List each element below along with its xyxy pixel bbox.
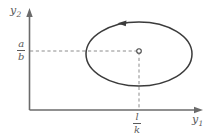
figure-canvas (0, 0, 216, 139)
vertical-axis-label: y2 (10, 5, 21, 16)
vertical-axis-label-subscript: 2 (17, 10, 22, 19)
orbit-direction-arrowhead (118, 20, 127, 26)
vertical-axis-label-base: y (10, 4, 16, 17)
horizontal-axis-label-base: y (192, 113, 198, 126)
vertical-axis-arrowhead (26, 8, 32, 17)
fraction-denominator: b (17, 52, 25, 63)
horizontal-axis-label-subscript: 1 (199, 119, 204, 128)
fraction-denominator: k (133, 125, 141, 136)
horizontal-axis-tick-label: l k (133, 112, 141, 136)
horizontal-axis (30, 107, 204, 113)
fraction-numerator: a (17, 39, 25, 50)
equilibrium-point-marker (137, 49, 142, 54)
fraction-a-over-b: a b (17, 39, 25, 62)
phase-plane-figure: y2 y1 a b l k (0, 0, 216, 139)
fraction-l-over-k: l k (133, 112, 141, 135)
vertical-axis (26, 8, 32, 110)
horizontal-axis-label: y1 (192, 114, 203, 125)
vertical-axis-tick-label: a b (17, 39, 25, 63)
fraction-numerator: l (133, 112, 141, 123)
